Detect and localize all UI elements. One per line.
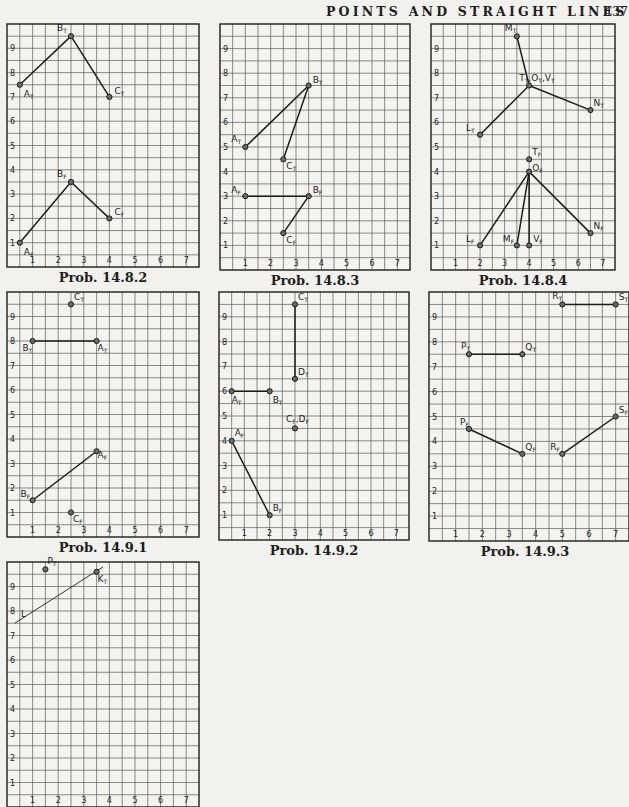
x-tick-label: 4 (318, 529, 323, 538)
y-tick-label: 7 (223, 94, 228, 103)
x-tick-label: 5 (132, 256, 137, 265)
point-marker (514, 34, 519, 39)
point-marker (527, 83, 532, 88)
point-marker (560, 451, 565, 456)
point-marker (613, 302, 618, 307)
x-tick-label: 3 (293, 259, 298, 268)
graph-panel-p3: 1234567123456789MTTT,OT,VTNTLTTFOFLFMFVF… (431, 24, 615, 270)
y-tick-label: 4 (10, 166, 15, 175)
y-tick-label: 8 (10, 337, 15, 346)
point-marker (306, 83, 311, 88)
point-label: L (21, 609, 26, 619)
page-header: POINTS AND STRAIGHT LINES (326, 4, 628, 19)
figure-caption: Prob. 14.9.3 (481, 544, 570, 559)
y-tick-label: 2 (434, 217, 439, 226)
x-tick-label: 7 (394, 529, 399, 538)
point-marker (68, 34, 73, 39)
point-marker (243, 194, 248, 199)
point-marker (527, 243, 532, 248)
x-tick-label: 1 (242, 529, 247, 538)
point-marker (17, 240, 22, 245)
y-tick-label: 6 (10, 386, 15, 395)
x-tick-label: 6 (368, 529, 373, 538)
point-label: PT (47, 556, 56, 567)
x-tick-label: 4 (533, 530, 538, 539)
graph-panel-p6: 1234567123456789RTSTPTQTPFQFRFSF (429, 292, 629, 541)
y-tick-label: 7 (222, 362, 227, 371)
y-tick-label: 3 (223, 192, 228, 201)
y-tick-label: 1 (434, 241, 439, 250)
x-tick-label: 3 (81, 526, 86, 535)
x-tick-label: 7 (613, 530, 618, 539)
y-tick-label: 2 (10, 214, 15, 223)
y-tick-label: 2 (222, 486, 227, 495)
x-tick-label: 7 (184, 796, 189, 805)
x-tick-label: 4 (107, 796, 112, 805)
y-tick-label: 1 (10, 509, 15, 518)
point-marker (267, 389, 272, 394)
y-tick-label: 9 (10, 313, 15, 322)
grid-plot: 1234567123456789CTBTATAFBFCF (7, 292, 199, 537)
y-tick-label: 6 (223, 118, 228, 127)
y-tick-label: 8 (222, 338, 227, 347)
grid-plot: 1234567123456789PTKTL (7, 562, 199, 807)
x-tick-label: 2 (267, 529, 272, 538)
x-tick-label: 7 (395, 259, 400, 268)
y-tick-label: 4 (432, 437, 437, 446)
y-tick-label: 7 (432, 363, 437, 372)
y-tick-label: 1 (222, 511, 227, 520)
point-marker (520, 352, 525, 357)
point-marker (306, 194, 311, 199)
graph-panel-p7: 1234567123456789PTKTL (7, 562, 199, 807)
y-tick-label: 5 (223, 143, 228, 152)
point-marker (588, 231, 593, 236)
y-tick-label: 8 (434, 69, 439, 78)
graph-panel-p2: 1234567123456789ATBTCTAFBFCF (220, 24, 410, 270)
point-marker (527, 157, 532, 162)
point-marker (30, 498, 35, 503)
x-tick-label: 6 (158, 256, 163, 265)
point-marker (107, 216, 112, 221)
y-tick-label: 3 (10, 730, 15, 739)
x-tick-label: 6 (586, 530, 591, 539)
y-tick-label: 8 (10, 69, 15, 78)
point-marker (229, 389, 234, 394)
x-tick-label: 2 (56, 796, 61, 805)
x-tick-label: 1 (453, 259, 458, 268)
x-tick-label: 4 (319, 259, 324, 268)
point-marker (613, 414, 618, 419)
x-tick-label: 1 (30, 796, 35, 805)
y-tick-label: 5 (434, 143, 439, 152)
y-tick-label: 5 (222, 412, 227, 421)
point-marker (68, 179, 73, 184)
y-tick-label: 9 (10, 583, 15, 592)
x-tick-label: 3 (506, 530, 511, 539)
x-tick-label: 5 (132, 796, 137, 805)
point-marker (107, 94, 112, 99)
x-tick-label: 3 (292, 529, 297, 538)
point-marker (243, 144, 248, 149)
point-marker (560, 302, 565, 307)
y-tick-label: 1 (10, 779, 15, 788)
x-tick-label: 6 (576, 259, 581, 268)
x-tick-label: 4 (107, 526, 112, 535)
y-tick-label: 9 (222, 313, 227, 322)
y-tick-label: 2 (432, 487, 437, 496)
x-tick-label: 5 (132, 526, 137, 535)
grid-plot: 1234567123456789CTDTATBTCF,DFAFBF (219, 292, 409, 540)
x-tick-label: 5 (344, 259, 349, 268)
y-tick-label: 3 (434, 192, 439, 201)
grid-plot: 1234567123456789RTSTPTQTPFQFRFSF (429, 292, 629, 541)
y-tick-label: 3 (432, 462, 437, 471)
y-tick-label: 4 (223, 168, 228, 177)
point-marker (30, 338, 35, 343)
point-marker (477, 132, 482, 137)
y-tick-label: 6 (434, 118, 439, 127)
x-tick-label: 7 (184, 256, 189, 265)
y-tick-label: 3 (10, 460, 15, 469)
y-tick-label: 9 (10, 44, 15, 53)
figure-caption: Prob. 14.8.2 (59, 270, 148, 285)
grid-plot: 1234567123456789MTTT,OT,VTNTLTTFOFLFMFVF… (431, 24, 615, 270)
y-tick-label: 3 (222, 462, 227, 471)
y-tick-label: 5 (10, 411, 15, 420)
